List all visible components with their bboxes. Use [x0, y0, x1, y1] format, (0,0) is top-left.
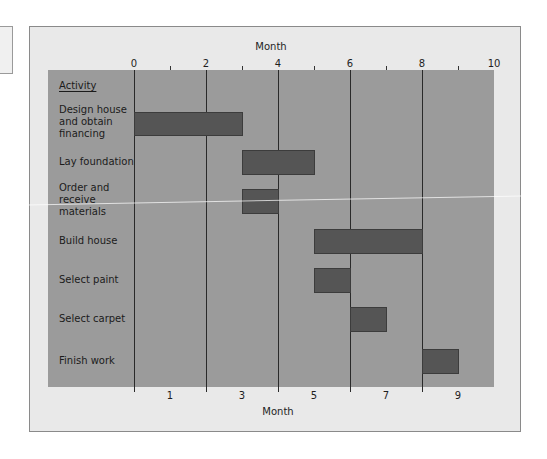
label-line: and obtain	[59, 116, 134, 128]
label-line: Order and	[59, 182, 134, 194]
gantt-bar-finish-work	[422, 349, 459, 374]
bottom-tick-label: 3	[239, 390, 245, 401]
gridline	[278, 70, 279, 392]
gantt-bar-design-house	[134, 112, 243, 136]
top-axis-title: Month	[255, 41, 286, 52]
bottom-axis-title: Month	[262, 406, 293, 417]
label-line: financing	[59, 128, 134, 140]
activity-label: Finish work	[59, 355, 134, 367]
top-tick-label: 10	[488, 58, 501, 69]
bottom-tick-label: 1	[167, 390, 173, 401]
bottom-tick-label: 7	[383, 390, 389, 401]
activity-label: Lay foundation	[59, 156, 134, 168]
top-tick-label: 4	[275, 58, 281, 69]
activity-label: Select carpet	[59, 313, 134, 325]
activity-label: Order and receive materials	[59, 182, 134, 218]
top-tick-label: 8	[419, 58, 425, 69]
top-tick-label: 0	[131, 58, 137, 69]
top-tick-label: 2	[203, 58, 209, 69]
activity-label: Design house and obtain financing	[59, 104, 134, 140]
activity-label: Build house	[59, 235, 134, 247]
gantt-bar-order-materials	[242, 189, 279, 214]
activity-label: Select paint	[59, 274, 134, 286]
bottom-tick-label: 9	[455, 390, 461, 401]
gantt-bar-lay-foundation	[242, 150, 315, 175]
gantt-bar-select-carpet	[350, 307, 387, 332]
top-tick-label: 6	[347, 58, 353, 69]
gantt-bar-build-house	[314, 229, 423, 254]
label-line: Design house	[59, 104, 134, 116]
label-line: materials	[59, 206, 134, 218]
side-box	[0, 26, 13, 74]
gantt-bar-select-paint	[314, 268, 351, 293]
bottom-tick-label: 5	[311, 390, 317, 401]
activity-header: Activity	[59, 80, 96, 91]
